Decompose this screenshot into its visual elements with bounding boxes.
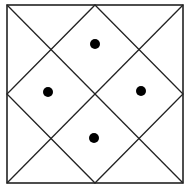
dot-right <box>136 86 146 96</box>
dot-bottom <box>89 133 99 143</box>
dots-group <box>43 39 146 143</box>
square-diamond-diagram <box>0 0 190 194</box>
dot-top <box>90 39 100 49</box>
dot-left <box>43 87 53 97</box>
